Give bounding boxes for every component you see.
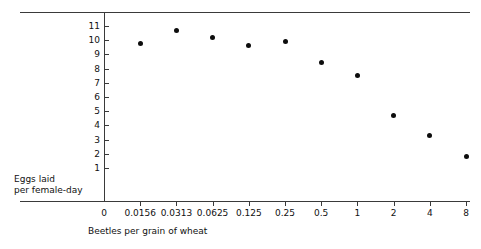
data-point xyxy=(210,35,215,40)
x-axis-tick-mark xyxy=(213,202,214,206)
x-axis-tick-mark xyxy=(249,202,250,206)
x-axis-tick-mark xyxy=(394,202,395,206)
data-point xyxy=(246,43,251,48)
x-axis-tick-label: 0.0625 xyxy=(197,208,229,218)
data-point xyxy=(319,60,324,65)
scatter-plot-figure: 1234567891011 00.01560.03130.06250.1250.… xyxy=(0,0,481,249)
plot-area xyxy=(104,12,470,201)
x-axis-tick-mark xyxy=(321,202,322,206)
y-axis-tick-label: 11 xyxy=(70,22,100,31)
y-axis-title-line-1: Eggs laid xyxy=(14,174,83,185)
x-axis-tick-label: 2 xyxy=(391,208,397,218)
y-axis-tick-label: 3 xyxy=(70,136,100,145)
x-axis-tick-label: 0.25 xyxy=(275,208,295,218)
y-axis-title: Eggs laid per female-day xyxy=(14,174,83,196)
y-axis-tick-label: 7 xyxy=(70,79,100,88)
data-point xyxy=(355,73,360,78)
x-axis-tick-label: 0.125 xyxy=(236,208,262,218)
data-point xyxy=(427,133,432,138)
y-axis-tick-label: 10 xyxy=(70,36,100,45)
y-axis-tick-label: 8 xyxy=(70,65,100,74)
x-axis-tick-label: 4 xyxy=(427,208,433,218)
y-axis-tick-label: 9 xyxy=(70,50,100,59)
data-point xyxy=(391,113,396,118)
x-axis-tick-label: 0.0313 xyxy=(161,208,193,218)
x-axis-tick-label: 0.0156 xyxy=(124,208,156,218)
y-axis-tick-label: 6 xyxy=(70,93,100,102)
x-axis-tick-mark xyxy=(466,202,467,206)
y-axis-tick-label: 4 xyxy=(70,121,100,130)
y-axis-title-line-2: per female-day xyxy=(14,185,83,196)
x-axis-tick-label: 8 xyxy=(463,208,469,218)
y-axis-tick-label: 5 xyxy=(70,107,100,116)
y-axis-tick-label: 2 xyxy=(70,150,100,159)
x-axis-tick-mark xyxy=(140,202,141,206)
x-axis-tick-mark xyxy=(176,202,177,206)
data-point xyxy=(283,39,288,44)
x-axis-title: Beetles per grain of wheat xyxy=(88,226,207,237)
x-axis-tick-mark xyxy=(430,202,431,206)
x-axis-tick-label: 0 xyxy=(101,208,107,218)
x-axis-tick-mark xyxy=(357,202,358,206)
data-point xyxy=(464,154,469,159)
data-point xyxy=(138,41,143,46)
x-axis-tick-mark xyxy=(285,202,286,206)
x-axis-line xyxy=(20,201,470,202)
data-point xyxy=(174,28,179,33)
x-axis-tick-label: 1 xyxy=(355,208,361,218)
x-axis-tick-label: 0.5 xyxy=(314,208,328,218)
y-axis-tick-label: 1 xyxy=(70,164,100,173)
